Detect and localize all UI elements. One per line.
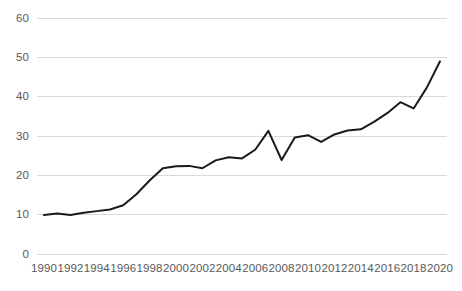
y-axis-tick-label: 60 (3, 12, 29, 24)
y-axis-tick-label: 40 (3, 90, 29, 102)
y-axis-tick-label: 50 (3, 51, 29, 63)
y-axis-tick-label: 20 (3, 169, 29, 181)
y-axis-tick-label: 30 (3, 130, 29, 142)
x-axis-tick-label: 2020 (425, 262, 455, 274)
chart-plot-area (0, 0, 462, 291)
data-series-line (44, 61, 440, 215)
y-axis-tick-label: 0 (3, 248, 29, 260)
y-axis-tick-label: 10 (3, 208, 29, 220)
gridlines-group (37, 18, 447, 254)
line-chart: 6050403020100 19901992199419961998200020… (0, 0, 462, 291)
